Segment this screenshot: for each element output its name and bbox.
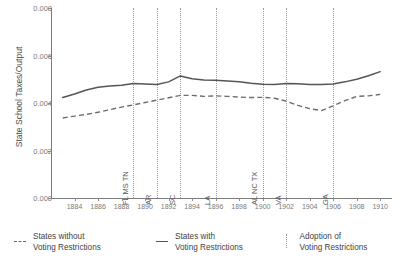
x-tick-label: 1902 (278, 203, 294, 210)
adoption-vline (133, 8, 134, 198)
legend-label-line1: States with (175, 232, 215, 241)
x-tick-label: 1908 (349, 203, 365, 210)
y-tick-label: 0.006 (6, 51, 52, 60)
x-tick-mark (263, 198, 264, 201)
legend-label-line2: Voting Restrictions (300, 243, 368, 252)
x-tick-label: 1884 (67, 203, 83, 210)
x-tick-mark (122, 198, 123, 201)
legend-label-line2: Voting Restrictions (175, 243, 243, 252)
x-tick-label: 1904 (302, 203, 318, 210)
y-axis-line (51, 8, 52, 198)
x-tick-label: 1894 (184, 203, 200, 210)
x-tick-mark (357, 198, 358, 201)
legend-item-states-with: States with Voting Restrictions (156, 232, 281, 253)
legend-label-line1: Adoption of (300, 232, 341, 241)
x-tick-label: 1888 (114, 203, 130, 210)
adoption-vline (216, 8, 217, 198)
x-tick-label: 1910 (372, 203, 388, 210)
x-tick-mark (333, 198, 334, 201)
chart-root: State School Taxes/Output 0.008 0.006 0.… (0, 0, 407, 271)
y-axis-title: State School Taxes/Output (14, 12, 24, 182)
x-tick-mark (98, 198, 99, 201)
x-tick-mark (286, 198, 287, 201)
legend-label: Adoption of Voting Restrictions (300, 232, 368, 253)
x-tick-mark (216, 198, 217, 201)
x-tick-mark (239, 198, 240, 201)
legend-label-line2: Voting Restrictions (33, 243, 101, 252)
series-svg (0, 0, 407, 228)
x-tick-mark (310, 198, 311, 201)
x-tick-mark (192, 198, 193, 201)
x-tick-mark (169, 198, 170, 201)
dashed-line-key-icon (14, 234, 28, 248)
adoption-vline (157, 8, 158, 198)
x-tick-mark (380, 198, 381, 201)
legend-label: States without Voting Restrictions (33, 232, 101, 253)
legend-item-states-without: States without Voting Restrictions (0, 232, 156, 253)
x-tick-label: 1896 (208, 203, 224, 210)
legend-label-line1: States without (33, 232, 84, 241)
x-tick-label: 1892 (161, 203, 177, 210)
legend-label: States with Voting Restrictions (175, 232, 243, 253)
y-tick-label: 0.002 (6, 146, 52, 155)
x-tick-label: 1898 (231, 203, 247, 210)
adoption-vline (180, 8, 181, 198)
legend-item-adoption: Adoption of Voting Restrictions (281, 232, 407, 253)
adoption-vline (333, 8, 334, 198)
solid-line-key-icon (156, 234, 170, 248)
x-tick-label: 1906 (325, 203, 341, 210)
adoption-vline (286, 8, 287, 198)
x-tick-mark (75, 198, 76, 201)
dotted-line-key-icon (281, 234, 295, 248)
x-tick-label: 1890 (137, 203, 153, 210)
y-tick-label: 0.000 (6, 194, 52, 203)
adoption-vline-label: AL NC TX (250, 172, 259, 205)
chart-legend: States without Voting Restrictions State… (0, 232, 407, 271)
adoption-vline (263, 8, 264, 198)
x-tick-mark (145, 198, 146, 201)
x-axis-line (51, 198, 392, 199)
x-tick-label: 1886 (90, 203, 106, 210)
plot-area: State School Taxes/Output 0.008 0.006 0.… (0, 0, 407, 228)
y-tick-label: 0.008 (6, 4, 52, 13)
y-tick-label: 0.004 (6, 99, 52, 108)
x-tick-label: 1900 (255, 203, 271, 210)
